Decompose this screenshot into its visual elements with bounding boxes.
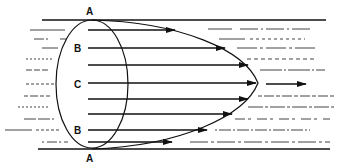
- right-streamlines: [190, 29, 335, 142]
- flow-profile-diagram: A B C B A: [0, 0, 345, 167]
- label-top-a: A: [86, 6, 93, 17]
- label-bottom-a: A: [86, 153, 93, 164]
- label-upper-b: B: [74, 43, 81, 54]
- pipe-cross-section: [56, 20, 128, 148]
- label-lower-b: B: [74, 125, 81, 136]
- velocity-arrows: [88, 30, 256, 142]
- left-streamlines: [5, 30, 68, 142]
- label-center-c: C: [74, 79, 81, 90]
